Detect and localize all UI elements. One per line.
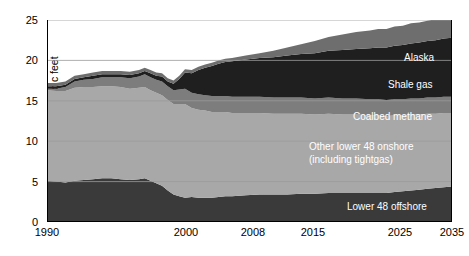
x-tick-label-2000: 2000 [156, 226, 216, 238]
series-label-alaska: Alaska [404, 52, 434, 63]
y-tick-label-10: 10 [0, 135, 38, 147]
series-label-other-onshore-2: (including tightgas) [309, 154, 393, 165]
y-tick-label-15: 15 [0, 95, 38, 107]
series-label-lower-48-offshore: Lower 48 offshore [347, 201, 427, 212]
series-label-coalbed-methane: Coalbed methane [353, 111, 432, 122]
series-label-shale-gas: Shale gas [388, 79, 432, 90]
x-tick-label-2015: 2015 [283, 226, 343, 238]
series-label-other-onshore-1: Other lower 48 onshore [309, 141, 414, 152]
x-tick-label-1990: 1990 [17, 226, 77, 238]
chart-figure: trillion cubic feet 25 20 15 10 5 0 1990… [0, 0, 469, 256]
x-tick-label-2035: 2035 [422, 226, 469, 238]
y-tick-label-5: 5 [0, 176, 38, 188]
x-tick-label-2025: 2025 [370, 226, 430, 238]
x-tick-label-2008: 2008 [223, 226, 283, 238]
y-tick-label-25: 25 [0, 14, 38, 26]
y-tick-label-20: 20 [0, 54, 38, 66]
plot-area: Alaska Shale gas Coalbed methane Other l… [47, 20, 452, 222]
